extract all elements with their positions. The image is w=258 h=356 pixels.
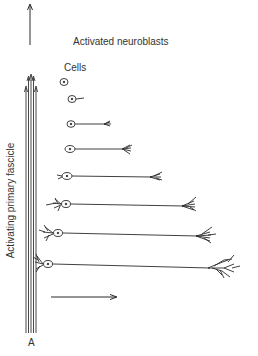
neuron-8 bbox=[33, 254, 240, 278]
neuron-3 bbox=[67, 121, 111, 128]
panel-label: A bbox=[28, 337, 35, 348]
fascicle-axis-label: Activating primary fascicle bbox=[5, 136, 16, 266]
neuron-7 bbox=[39, 225, 216, 243]
arrow-right-icon bbox=[51, 295, 117, 300]
neuron-6 bbox=[46, 197, 196, 211]
cells-label: Cells bbox=[64, 62, 86, 73]
arrow-up-icon bbox=[28, 4, 33, 45]
neuron-diagram bbox=[0, 0, 258, 356]
neuron-2 bbox=[68, 96, 84, 103]
diagram-title: Activated neuroblasts bbox=[73, 36, 169, 47]
neuron-1 bbox=[60, 79, 68, 86]
primary-fascicle bbox=[25, 74, 38, 333]
neuron-5 bbox=[57, 172, 162, 180]
neuron-4 bbox=[65, 145, 132, 154]
